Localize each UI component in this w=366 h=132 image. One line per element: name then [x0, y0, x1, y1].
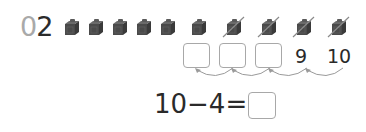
count-back-arrows — [0, 60, 366, 86]
equation-answer-box[interactable] — [248, 92, 276, 119]
cube-icon — [65, 19, 79, 35]
cube-icon — [192, 19, 206, 35]
arrow-10-to-9 — [307, 68, 343, 76]
crossed-cube-icon — [258, 17, 279, 37]
arrow-blank2-to-blank1 — [197, 68, 233, 76]
arrow-blank3-to-blank2 — [233, 68, 270, 76]
cube-icon — [137, 19, 151, 35]
cube-icon — [161, 19, 175, 35]
equation-text: 10−4= — [154, 89, 247, 119]
crossed-cube-icon — [223, 17, 244, 37]
crossed-cube-icon — [293, 17, 314, 37]
crossed-cube-icon — [328, 17, 349, 37]
arrow-9-to-blank3 — [270, 68, 307, 76]
cubes-row — [0, 0, 366, 42]
cube-icon — [89, 19, 103, 35]
cube-icon — [113, 19, 127, 35]
